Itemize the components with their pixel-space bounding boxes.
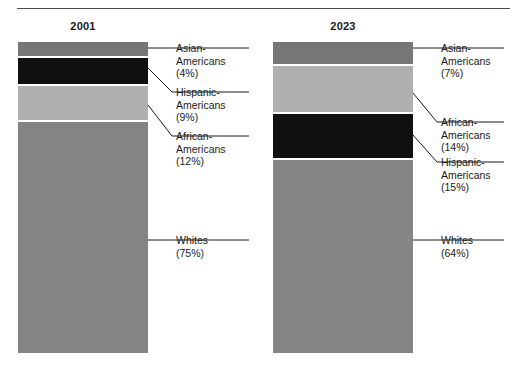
callout-label-line1: Hispanic- [441,156,485,168]
callout-label-line2: Americans [441,169,491,181]
callout-label-line1: Asian- [176,42,206,54]
callout-hispanic-americans-2023: Hispanic- Americans (15%) [441,156,491,194]
callout-label-line2: Americans [176,143,226,155]
callout-label-line2: Americans [441,55,491,67]
bar-segment-asian-americans-2001 [18,42,148,56]
bar-segment-african-americans-2001 [18,86,148,120]
bar-segment-asian-americans-2023 [273,42,413,64]
callout-label-line2: Americans [176,55,226,67]
callout-label-line2: Americans [441,129,491,141]
callout-label-line1: Asian- [441,42,471,54]
callout-value: (4%) [176,67,226,80]
callout-label-line1: Whites [441,234,473,246]
callout-label-line1: African- [441,116,477,128]
callout-asian-americans-2023: Asian- Americans (7%) [441,42,491,80]
chart-panel-2001: 2001 Asian- Americans (4%) Hispanic- Ame… [0,0,255,367]
chart-title-2001: 2001 [18,20,148,32]
bar-segment-hispanic-americans-2001 [18,58,148,84]
callout-value: (7%) [441,67,491,80]
callout-label-line1: Whites [176,234,208,246]
stacked-bar-2023 [273,42,413,353]
chart-panel-2023: 2023 Asian- Americans (7%) African- Amer… [255,0,510,367]
callout-african-americans-2023: African- Americans (14%) [441,116,491,154]
callout-value: (9%) [176,111,226,124]
figure-root: 2001 Asian- Americans (4%) Hispanic- Ame… [0,0,510,367]
callout-african-americans-2001: African- Americans (12%) [176,130,226,168]
callout-value: (15%) [441,181,491,194]
bar-segment-african-americans-2023 [273,66,413,112]
callout-value: (64%) [441,247,473,260]
bar-segment-whites-2023 [273,160,413,353]
callout-label-line1: Hispanic- [176,86,220,98]
callout-asian-americans-2001: Asian- Americans (4%) [176,42,226,80]
callout-value: (12%) [176,155,226,168]
callout-label-line2: Americans [176,99,226,111]
callout-hispanic-americans-2001: Hispanic- Americans (9%) [176,86,226,124]
chart-title-2023: 2023 [273,20,413,32]
bar-segment-hispanic-americans-2023 [273,114,413,158]
callout-value: (14%) [441,141,491,154]
callout-label-line1: African- [176,130,212,142]
callout-whites-2001: Whites (75%) [176,234,208,259]
stacked-bar-2001 [18,42,148,353]
callout-value: (75%) [176,247,208,260]
callout-whites-2023: Whites (64%) [441,234,473,259]
bar-segment-whites-2001 [18,122,148,353]
